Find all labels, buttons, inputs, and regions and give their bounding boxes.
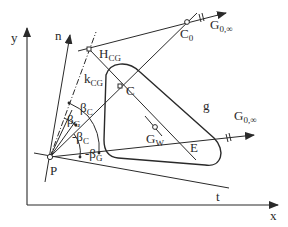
t-line-label: t [216,189,220,204]
angle-beta-G-label: βG [67,112,81,129]
point-C [118,84,122,88]
angle-neg-beta-C-label: -βC [72,129,89,146]
y-axis-label: y [11,30,18,45]
angle-neg-beta-G-label: -βG [85,146,103,163]
x-axis-label: x [270,208,277,223]
diagram-canvas: y x n t g P C E C0 HCG GW kCG G0,∞ G0,∞ … [0,0,288,227]
point-C0 [185,20,190,25]
g-line-label: g [203,98,210,113]
angle-beta-C-label: βC [80,100,93,117]
point-GW [153,125,158,130]
point-HCG-label: HCG [99,46,121,63]
point-C-label: C [126,83,135,98]
point-P [47,154,52,159]
n-axis-label: n [55,28,62,43]
G0inf-top-label: G0,∞ [210,17,233,34]
t-line [34,153,229,188]
n-axis [45,35,70,182]
G0inf-g-label: G0,∞ [234,108,257,125]
kCG-label: kCG [84,71,104,88]
point-HCG [87,47,91,51]
geometry-diagram: y x n t g P C E C0 HCG GW kCG G0,∞ G0,∞ … [0,0,288,227]
region-E-outline [104,64,221,165]
region-E-label: E [190,140,198,155]
point-GW-label: GW [146,131,164,148]
point-C0-label: C0 [180,26,194,43]
point-P-label: P [50,163,57,178]
